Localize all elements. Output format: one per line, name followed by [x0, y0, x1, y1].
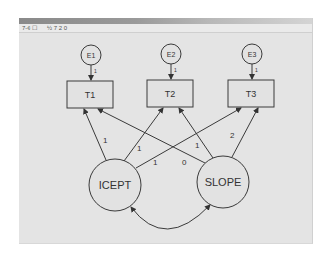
latent-node-icept[interactable]: ICEPT	[89, 159, 141, 211]
path-label-e1: 1	[94, 68, 97, 74]
observed-node-t2[interactable]: T2	[147, 80, 193, 107]
observed-label-t1: T1	[85, 90, 96, 100]
path-slope-t3[interactable]	[232, 108, 258, 157]
observed-nodes: T1 T2 T3	[67, 80, 274, 108]
label-icept-t1: 1	[103, 136, 108, 145]
path-diagram: 1 1 1 1 1 1 0 1 2 E1 E2	[0, 0, 332, 261]
label-slope-t3: 2	[230, 131, 235, 140]
latent-label-icept: ICEPT	[99, 179, 132, 191]
observed-node-t3[interactable]: T3	[228, 80, 274, 107]
label-icept-t2: 1	[137, 144, 142, 153]
observed-label-t2: T2	[165, 89, 176, 99]
path-icept-t2[interactable]	[124, 108, 163, 161]
error-label-e1: E1	[87, 52, 96, 59]
covariance-icept-slope[interactable]	[131, 205, 210, 229]
latent-nodes: ICEPT SLOPE	[89, 156, 249, 211]
label-slope-t1: 0	[182, 158, 187, 167]
error-nodes: E1 E2 E3	[81, 44, 262, 65]
observed-node-t1[interactable]: T1	[67, 81, 113, 108]
path-icept-t1[interactable]	[84, 109, 106, 160]
path-label-e2: 1	[174, 67, 177, 73]
error-node-e2[interactable]: E2	[161, 44, 181, 64]
error-label-e3: E3	[248, 51, 257, 58]
observed-label-t3: T3	[246, 89, 257, 99]
error-paths: 1 1 1	[91, 64, 258, 80]
error-node-e1[interactable]: E1	[81, 45, 101, 65]
error-label-e2: E2	[167, 51, 176, 58]
error-node-e3[interactable]: E3	[242, 44, 262, 64]
path-slope-t2[interactable]	[179, 108, 213, 158]
label-slope-t2: 1	[195, 141, 200, 150]
path-label-e3: 1	[255, 67, 258, 73]
path-slope-t1[interactable]	[98, 109, 205, 163]
latent-label-slope: SLOPE	[205, 176, 242, 188]
label-icept-t3: 1	[153, 158, 158, 167]
latent-node-slope[interactable]: SLOPE	[197, 156, 249, 208]
